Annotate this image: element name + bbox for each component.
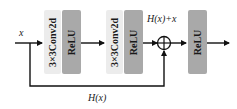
conv2-label: 3×3Conv2d <box>109 17 120 66</box>
relu2-block: ReLU <box>124 10 143 74</box>
conv1-block: 3×3Conv2d <box>44 10 61 74</box>
relu1-label: ReLU <box>66 29 77 55</box>
relu2-label: ReLU <box>128 29 139 55</box>
relu3-block: ReLU <box>188 10 207 74</box>
skip-label: H(x) <box>88 92 106 103</box>
input-label: x <box>19 27 23 38</box>
relu1-block: ReLU <box>62 10 81 74</box>
relu3-label: ReLU <box>192 29 203 55</box>
sum-label: H(x)+x <box>147 13 177 24</box>
sum-node-icon <box>158 37 171 50</box>
conv1-label: 3×3Conv2d <box>47 17 58 66</box>
conv2-block: 3×3Conv2d <box>106 10 123 74</box>
